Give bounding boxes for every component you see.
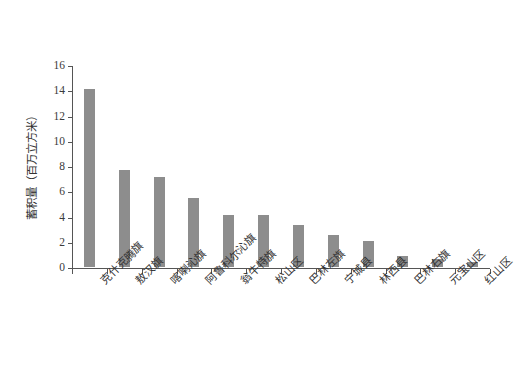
bar	[84, 89, 95, 267]
y-axis-line	[72, 66, 73, 269]
x-axis-category-label[interactable]: 元宝山区	[448, 279, 456, 287]
y-tick-label: 12	[54, 111, 66, 123]
bar-chart-figure: 蓄积量（百万立方米） 0246810121416 克什克腾旗敖汉旗喀喇沁旗阿鲁科…	[0, 0, 525, 372]
y-tick-mark	[68, 192, 72, 193]
y-tick-label: 8	[59, 161, 65, 173]
x-axis-category-label[interactable]: 喀喇沁旗	[169, 279, 177, 287]
y-tick-mark	[68, 117, 72, 118]
y-axis-title-label: 蓄积量（百万立方米）	[23, 110, 39, 220]
y-tick-mark	[68, 66, 72, 67]
y-tick-mark	[68, 91, 72, 92]
plot-area: 0246810121416	[72, 66, 490, 268]
x-axis-category-label[interactable]: 松山区	[273, 279, 281, 287]
x-axis-category-label[interactable]: 翁牛特旗	[239, 279, 247, 287]
x-axis-category-label[interactable]: 克什克腾旗	[99, 279, 107, 287]
y-tick-label: 4	[59, 212, 65, 224]
y-tick-mark	[68, 167, 72, 168]
y-tick-label: 6	[59, 187, 65, 199]
x-axis-category-label[interactable]: 林西县	[378, 279, 386, 287]
y-tick-label: 0	[59, 262, 65, 274]
x-axis-category-label[interactable]: 阿鲁科尔沁旗	[204, 279, 212, 287]
x-axis-category-label[interactable]: 巴林右旗	[413, 279, 421, 287]
y-axis-title: 蓄积量（百万立方米）	[22, 62, 40, 268]
x-axis-category-label[interactable]: 巴林左旗	[308, 279, 316, 287]
y-tick-mark	[68, 142, 72, 143]
x-tick-mark	[72, 269, 73, 274]
x-axis-category-label[interactable]: 宁城县	[343, 279, 351, 287]
y-tick-label: 10	[54, 136, 66, 148]
y-tick-label: 16	[54, 60, 66, 72]
x-axis-category-label[interactable]: 敖汉旗	[134, 279, 142, 287]
y-tick-mark	[68, 243, 72, 244]
y-tick-label: 14	[54, 86, 66, 98]
y-tick-label: 2	[59, 237, 65, 249]
y-tick-mark	[68, 218, 72, 219]
bar	[154, 177, 165, 267]
x-axis-category-label[interactable]: 红山区	[482, 279, 490, 287]
